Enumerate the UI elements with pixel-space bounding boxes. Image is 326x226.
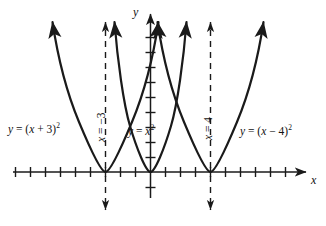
curve-label-left-exponent: 2 bbox=[56, 121, 60, 130]
x-axis-label: x bbox=[311, 174, 316, 186]
curve-label-left-equals: = bbox=[13, 123, 25, 135]
curve-label-right: y = (x − 4)2 bbox=[240, 126, 292, 138]
vline-left-equals: = bbox=[95, 125, 107, 137]
curve-label-right-equals: = bbox=[245, 125, 257, 137]
vertical-line-label-x-equals-4: x = 4 bbox=[203, 117, 215, 140]
coordinate-plane bbox=[0, 0, 326, 226]
y-axis-label: y bbox=[133, 6, 138, 18]
vertical-line-label-x-equals-minus-3: x = −3 bbox=[96, 112, 108, 142]
vline-right-value: 4 bbox=[202, 117, 214, 123]
parabola-translation-figure: y = (x + 3)2 y = x2 y = (x − 4)2 x = −3 … bbox=[0, 0, 326, 226]
curve-label-center-exponent: 2 bbox=[150, 123, 154, 132]
curve-label-center: y = x2 bbox=[128, 126, 154, 138]
vline-left-value: −3 bbox=[95, 112, 107, 124]
vline-right-var: x bbox=[202, 135, 214, 140]
curve-label-right-sign: − bbox=[266, 125, 278, 137]
vline-left-var: x bbox=[95, 137, 107, 142]
curve-label-center-equals: = bbox=[133, 125, 145, 137]
curve-label-left-sign: + bbox=[34, 123, 46, 135]
vline-right-equals: = bbox=[202, 123, 214, 135]
curve-label-right-exponent: 2 bbox=[288, 123, 292, 132]
curve-label-left: y = (x + 3)2 bbox=[8, 124, 60, 136]
